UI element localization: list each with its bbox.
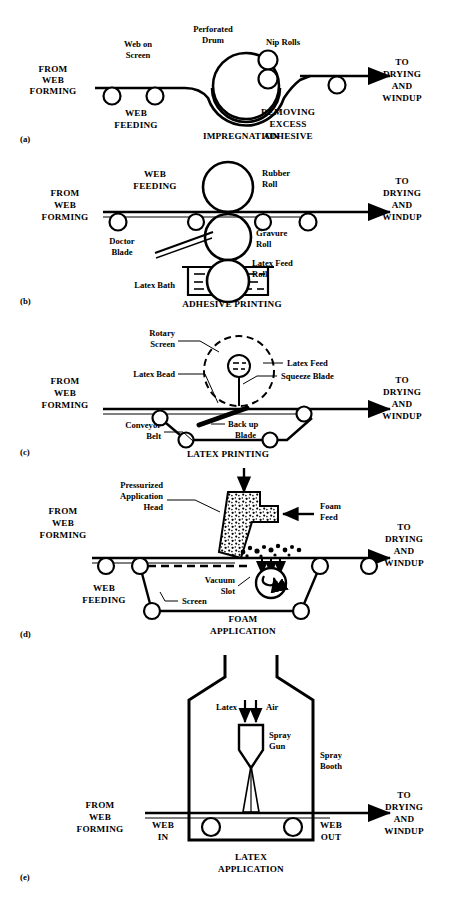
spray-gun-label-l2: Gun bbox=[269, 741, 285, 751]
panel-a-tag: (a) bbox=[20, 134, 30, 144]
screen-label: Screen bbox=[182, 596, 207, 606]
panel-a-output-line2: DRYING bbox=[383, 69, 421, 79]
web-out-label-l2: OUT bbox=[321, 832, 342, 842]
panel-e-output-line1: TO bbox=[397, 790, 411, 800]
panel-e-output-line3: AND bbox=[394, 814, 415, 824]
web-out-label-l1: WEB bbox=[320, 820, 342, 830]
panel-d-output-line2: DRYING bbox=[385, 534, 423, 544]
panel-b-output-line2: DRYING bbox=[383, 188, 421, 198]
guide-roll-d0 bbox=[98, 558, 114, 574]
doctor-blade bbox=[155, 232, 213, 258]
spray-gun bbox=[239, 725, 263, 768]
screen-roll-d4 bbox=[312, 558, 328, 574]
panel-b-output-line3: AND bbox=[392, 200, 413, 210]
panel-d-output-line3: AND bbox=[394, 546, 415, 556]
vacuum-slot-label-l1: Vacuum bbox=[205, 575, 236, 585]
spray-booth-label-l1: Spray bbox=[320, 750, 343, 760]
panel-b-caption: ADHESIVE PRINTING bbox=[182, 299, 282, 309]
rotary-screen-leader bbox=[178, 341, 219, 352]
process-diagram-figure: FROM WEB FORMING Web on Screen Perforate… bbox=[0, 0, 459, 917]
booth-roll-out bbox=[284, 818, 302, 836]
panel-b-adhesive-printing: FROM WEB FORMING WEB FEEDING Rubber Roll… bbox=[20, 162, 422, 309]
panel-d-output-line1: TO bbox=[397, 522, 411, 532]
panel-c-caption: LATEX PRINTING bbox=[187, 449, 269, 459]
guide-roll-d5 bbox=[361, 558, 377, 574]
panel-c-output-line4: WINDUP bbox=[382, 411, 422, 421]
booth-roll-in bbox=[202, 818, 220, 836]
panel-a-caption: IMPREGNATION bbox=[203, 131, 279, 141]
panel-e-input-line1: FROM bbox=[86, 800, 115, 810]
screen-roll-d3 bbox=[293, 603, 309, 619]
panel-b-input-line1: FROM bbox=[51, 188, 80, 198]
panel-e-caption-l2: APPLICATION bbox=[218, 864, 284, 874]
web-feeding-label-a-l1: WEB bbox=[125, 108, 147, 118]
pressurized-head-leader bbox=[167, 500, 220, 512]
nip-roll-lower bbox=[259, 70, 278, 89]
guide-roll-a3 bbox=[329, 77, 346, 94]
conveyor-belt-label-l2: Belt bbox=[146, 431, 161, 441]
panel-c-output-line3: AND bbox=[392, 399, 413, 409]
panel-e-latex-application: FROM WEB FORMING Latex Air Spray Gun Spr… bbox=[20, 655, 424, 882]
doctor-blade-label-l1: Doctor bbox=[109, 236, 134, 246]
gravure-roll bbox=[205, 214, 251, 260]
perforated-drum-label-l2: Drum bbox=[202, 35, 225, 45]
web-on-screen-label-l1: Web on bbox=[124, 39, 152, 49]
guide-roll-b4 bbox=[300, 214, 317, 231]
panel-e-input-line2: WEB bbox=[89, 812, 111, 822]
conveyor-belt-label-l1: Conveyor bbox=[125, 420, 161, 430]
guide-roll-b1 bbox=[110, 214, 127, 231]
vacuum-slot-label-l2: Slot bbox=[221, 586, 235, 596]
gravure-roll-label-l2: Roll bbox=[256, 239, 272, 249]
nip-rolls-label: Nip Rolls bbox=[266, 37, 301, 47]
guide-roll-a1 bbox=[104, 88, 121, 105]
panel-a-output-line1: TO bbox=[395, 57, 409, 67]
air-inlet-label: Air bbox=[266, 702, 279, 712]
removing-excess-l2: EXCESS bbox=[270, 119, 307, 129]
panel-a-input-line1: FROM bbox=[39, 64, 68, 74]
conveyor-roll-c4 bbox=[297, 407, 312, 422]
panel-a-input-line2: WEB bbox=[42, 75, 64, 85]
latex-feed-roll bbox=[207, 260, 249, 302]
panel-b-output-line1: TO bbox=[395, 176, 409, 186]
web-on-screen-label-l2: Screen bbox=[126, 50, 151, 60]
rotary-screen-label-l1: Rotary bbox=[149, 328, 175, 338]
panel-e-caption-l1: LATEX bbox=[235, 852, 267, 862]
latex-bead-leader bbox=[178, 374, 218, 403]
panel-b-input-line3: FORMING bbox=[42, 212, 89, 222]
screen-roll-d1 bbox=[132, 558, 148, 574]
spray-booth-label-l2: Booth bbox=[320, 761, 342, 771]
panel-e-tag: (e) bbox=[20, 872, 30, 882]
gravure-roll-label-l1: Gravure bbox=[256, 228, 288, 238]
web-in-label-l1: WEB bbox=[152, 820, 174, 830]
panel-d-input-line1: FROM bbox=[49, 506, 78, 516]
panel-d-output-line4: WINDUP bbox=[384, 558, 424, 568]
panel-c-latex-printing: FROM WEB FORMING Rotary Screen Latex Fee… bbox=[20, 328, 422, 459]
foam-feed-label-l1: Foam bbox=[320, 501, 342, 511]
rubber-roll-label-l2: Roll bbox=[262, 179, 278, 189]
latex-feed-roll-label-l1: Latex Feed bbox=[252, 258, 293, 268]
panel-c-output-line2: DRYING bbox=[383, 387, 421, 397]
guide-roll-b2 bbox=[188, 214, 204, 230]
screen-leader bbox=[160, 592, 178, 601]
web-feeding-label-d-l2: FEEDING bbox=[82, 595, 125, 605]
web-feeding-label-d-l1: WEB bbox=[93, 583, 115, 593]
screen-roll-d2 bbox=[144, 603, 160, 619]
panel-b-input-line2: WEB bbox=[54, 200, 76, 210]
pressurized-head-label-l3: Head bbox=[143, 502, 163, 512]
nip-roll-upper bbox=[259, 51, 278, 70]
latex-feed-roll-label-l2: Roll bbox=[252, 269, 268, 279]
panel-e-input-line3: FORMING bbox=[77, 824, 124, 834]
web-feeding-label-a-l2: FEEDING bbox=[114, 120, 157, 130]
rotary-screen-label-l2: Screen bbox=[150, 339, 175, 349]
web-feeding-label-b-l1: WEB bbox=[144, 169, 166, 179]
panel-b-tag: (b) bbox=[20, 296, 31, 306]
perforated-drum-label-l1: Perforated bbox=[193, 24, 233, 34]
panel-a-input-line3: FORMING bbox=[30, 86, 77, 96]
panel-d-caption-l1: FOAM bbox=[229, 614, 258, 624]
latex-feed-chamber bbox=[228, 355, 250, 377]
squeeze-blade-label: Squeeze Blade bbox=[281, 371, 334, 381]
rubber-roll bbox=[203, 162, 253, 212]
back-up-blade-label-l2: Blade bbox=[235, 430, 256, 440]
web-feeding-label-b-l2: FEEDING bbox=[133, 181, 176, 191]
latex-feed-label: Latex Feed bbox=[287, 358, 328, 368]
